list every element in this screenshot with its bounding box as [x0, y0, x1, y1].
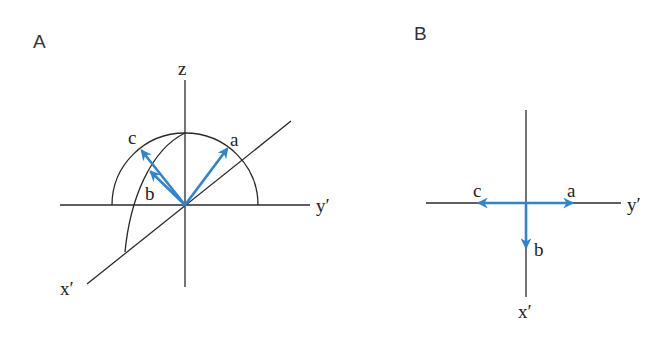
- panel-b-label: B: [414, 23, 427, 44]
- vector-b-label-b: b: [534, 239, 544, 260]
- y-prime-axis-label-b: y′: [627, 194, 641, 215]
- vector-c-label-b: c: [473, 180, 481, 201]
- vector-b: [151, 172, 185, 205]
- y-prime-axis-label: y′: [316, 195, 330, 216]
- z-axis-label: z: [178, 58, 186, 79]
- panel-b: B x′ y′ a b c: [414, 23, 641, 322]
- panel-a: A z y′ x′ a b c: [33, 31, 330, 299]
- vector-c-label: c: [128, 127, 136, 148]
- x-prime-axis-label-b: x′: [518, 301, 532, 322]
- vector-a-label-b: a: [567, 180, 576, 201]
- x-prime-axis-label: x′: [60, 278, 74, 299]
- vector-a-label: a: [230, 129, 239, 150]
- panel-a-label: A: [33, 31, 46, 52]
- x-prime-axis: [87, 121, 291, 284]
- figure-canvas: A z y′ x′ a b c B x′ y′ a: [0, 0, 670, 342]
- vector-b-label: b: [145, 183, 155, 204]
